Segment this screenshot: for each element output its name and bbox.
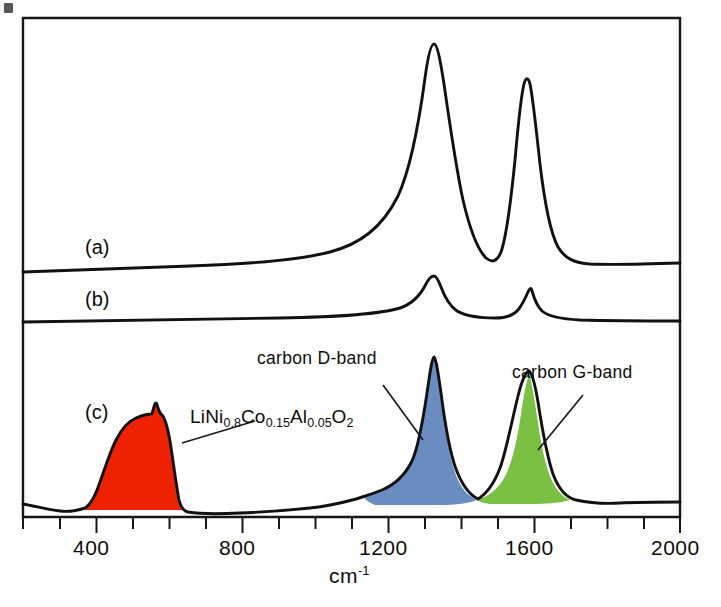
spectrum-curve-b [23,276,680,322]
leader-line-g-band [538,395,583,450]
formula-sub-1: 0.8 [224,416,241,430]
raman-figure: (a) (b) (c) carbon D-band carbon G-band … [0,0,721,607]
formula-part-4: O [332,406,347,427]
curve-label-a: (a) [85,236,109,259]
label-carbon-g-band: carbon G-band [512,362,633,383]
label-cathode-formula: LiNi0.8Co0.15Al0.05O2 [190,406,354,428]
formula-part-2: Co [241,406,266,427]
spectrum-curve-a [23,44,680,272]
formula-sub-3: 0.05 [307,416,331,430]
formula-sub-2: 0.15 [266,416,290,430]
x-axis-title-main: cm [329,564,358,587]
x-axis-title: cm-1 [329,563,370,588]
x-tick-label-400: 400 [73,536,110,560]
formula-part-3: Al [290,406,307,427]
leader-line-d-band [383,385,423,440]
label-carbon-d-band: carbon D-band [257,348,377,369]
curve-label-c: (c) [85,401,108,424]
x-axis-title-exponent: -1 [358,563,370,578]
x-tick-label-1600: 1600 [505,536,554,560]
x-tick-label-2000: 2000 [651,536,700,560]
x-axis-ticks [23,517,680,533]
x-tick-label-800: 800 [219,536,256,560]
formula-sub-4: 2 [347,416,354,430]
formula-part-1: LiNi [190,406,224,427]
x-tick-label-1200: 1200 [359,536,408,560]
curve-label-b: (b) [85,288,109,311]
